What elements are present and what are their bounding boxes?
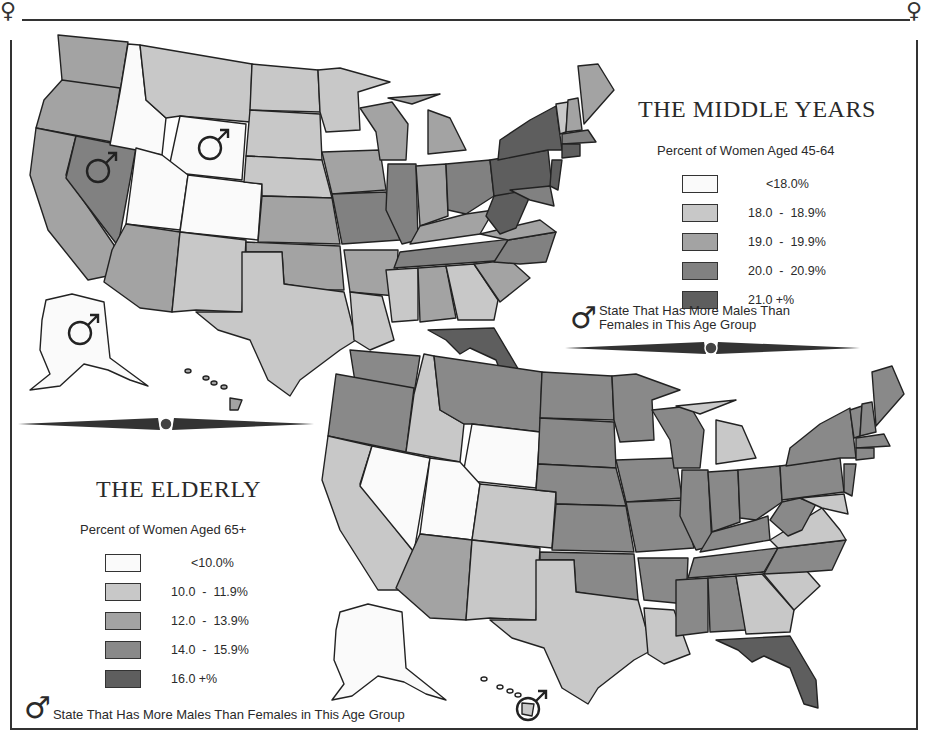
- state-north-dakota: [540, 372, 614, 420]
- state-kansas: [552, 504, 634, 552]
- island-hawaii-2: [203, 376, 209, 380]
- state-new-jersey: [550, 160, 562, 190]
- state-iowa: [616, 458, 682, 502]
- island-hawaii-1: [481, 677, 487, 681]
- island-hawaii-4: [515, 693, 521, 697]
- male-symbol-icon: ♂: [570, 304, 597, 332]
- legend-item: 16.0 +%: [105, 664, 249, 693]
- legend-swatch: [105, 612, 141, 630]
- legend-label: 16.0 +%: [171, 672, 217, 686]
- legend-item: <10.0%: [105, 548, 249, 577]
- state-new-york: [786, 408, 856, 466]
- legend-item: 12.0 - 13.9%: [105, 606, 249, 635]
- legend-swatch: [105, 641, 141, 659]
- state-mississippi: [676, 578, 708, 636]
- state-new-york: [498, 106, 562, 160]
- state-new-jersey: [844, 464, 856, 496]
- legend-item: 19.0 - 19.9%: [682, 227, 826, 256]
- state-mississippi: [386, 268, 418, 322]
- legend-swatch: [105, 554, 141, 572]
- middle-years-legend: <18.0% 18.0 - 18.9% 19.0 - 19.9% 20.0 - …: [682, 169, 826, 314]
- state-alaska: [30, 294, 148, 390]
- legend-swatch: [105, 670, 141, 688]
- island-hawaii-1: [185, 369, 191, 373]
- legend-swatch: [105, 583, 141, 601]
- legend-label: <18.0%: [766, 177, 809, 191]
- middle-years-male-note: ♂ State That Has More Males Than Females…: [570, 304, 790, 332]
- state-new-hampshire: [860, 402, 876, 436]
- elderly-legend: <10.0% 10.0 - 11.9% 12.0 - 13.9% 14.0 - …: [105, 548, 249, 693]
- state-south-dakota: [246, 110, 322, 160]
- legend-item: 20.0 - 20.9%: [682, 256, 826, 285]
- legend-swatch: [682, 204, 718, 222]
- state-colorado: [472, 484, 556, 548]
- state-hawaii: [522, 703, 534, 716]
- state-indiana: [708, 470, 740, 532]
- legend-label: 10.0 - 11.9%: [171, 585, 248, 599]
- state-new-hampshire: [566, 98, 582, 132]
- state-kansas: [258, 196, 340, 244]
- state-florida: [716, 636, 818, 708]
- male-note-text: State That Has More Males Than Females i…: [599, 304, 790, 332]
- state-new-mexico: [466, 540, 540, 620]
- state-colorado: [180, 175, 262, 240]
- divider-ornament-right: [565, 342, 860, 354]
- state-south-dakota: [538, 418, 616, 468]
- island-hawaii-3: [507, 689, 513, 693]
- state-connecticut: [856, 448, 874, 460]
- state-indiana: [416, 164, 448, 226]
- state-louisiana: [350, 292, 394, 350]
- legend-swatch: [682, 233, 718, 251]
- male-note-text: State That Has More Males Than Females i…: [53, 708, 405, 722]
- legend-swatch: [682, 262, 718, 280]
- divider-ornament-left: [18, 418, 314, 430]
- legend-label: 20.0 - 20.9%: [748, 264, 826, 278]
- middle-years-subtitle: Percent of Women Aged 45-64: [657, 143, 835, 158]
- middle-years-title: THE MIDDLE YEARS: [638, 96, 876, 123]
- island-hawaii-4: [221, 385, 227, 389]
- state-ohio: [446, 160, 494, 214]
- legend-item: 14.0 - 15.9%: [105, 635, 249, 664]
- state-alaska: [332, 604, 446, 700]
- island-hawaii-3: [211, 381, 217, 385]
- elderly-title: THE ELDERLY: [96, 476, 261, 503]
- legend-label: 18.0 - 18.9%: [748, 206, 826, 220]
- state-maine: [872, 366, 904, 426]
- island-hawaii-2: [497, 685, 503, 689]
- legend-swatch: [682, 175, 718, 193]
- state-connecticut: [562, 144, 580, 158]
- legend-label: 19.0 - 19.9%: [748, 235, 826, 249]
- legend-label: 12.0 - 13.9%: [171, 614, 249, 628]
- state-north-dakota: [250, 64, 320, 112]
- legend-label: 14.0 - 15.9%: [171, 643, 249, 657]
- elderly-map: [322, 350, 904, 720]
- male-symbol-icon: ♂: [24, 694, 51, 722]
- middle-years-map: [30, 35, 614, 410]
- state-montana: [140, 45, 252, 122]
- state-iowa: [322, 150, 386, 194]
- legend-item: 10.0 - 11.9%: [105, 577, 249, 606]
- state-hawaii: [230, 398, 242, 410]
- state-maine: [578, 64, 614, 124]
- legend-label: <10.0%: [191, 556, 234, 570]
- elderly-male-note: ♂ State That Has More Males Than Females…: [24, 694, 405, 722]
- elderly-subtitle: Percent of Women Aged 65+: [80, 522, 246, 537]
- legend-item: 18.0 - 18.9%: [682, 198, 826, 227]
- legend-item: <18.0%: [682, 169, 826, 198]
- state-new-mexico: [172, 232, 246, 312]
